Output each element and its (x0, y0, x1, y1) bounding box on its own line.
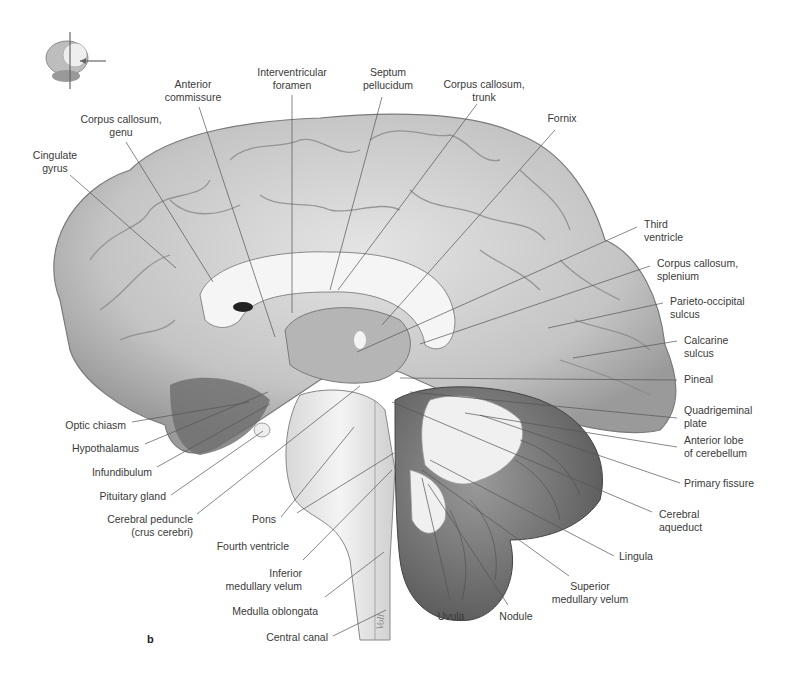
label-lingula: Lingula (619, 550, 653, 563)
label-interventricular-foramen: Interventricularforamen (257, 66, 326, 91)
panel-letter: b (147, 633, 154, 645)
label-medulla-oblongata: Medulla oblongata (232, 605, 318, 618)
label-calcarine-sulcus: Calcarinesulcus (684, 334, 728, 359)
label-anterior-commissure: Anteriorcommissure (165, 78, 222, 103)
label-hypothalamus: Hypothalamus (72, 442, 139, 455)
label-cerebral-peduncle: Cerebral peduncle(crus cerebri) (107, 513, 193, 538)
label-corpus-callosum-trunk: Corpus callosum,trunk (443, 78, 524, 103)
artist-signature: Voll (374, 613, 386, 630)
label-fourth-ventricle: Fourth ventricle (217, 540, 289, 553)
brain-sagittal-diagram: Voll Anteriorcommissure Interventricular… (0, 0, 786, 677)
label-pons: Pons (252, 513, 276, 526)
label-pituitary-gland: Pituitary gland (99, 490, 166, 503)
brain-orientation-icon (46, 32, 106, 89)
label-anterior-lobe-cerebellum: Anterior lobeof cerebellum (684, 434, 747, 459)
label-optic-chiasm: Optic chiasm (65, 419, 126, 432)
label-central-canal: Central canal (266, 631, 328, 644)
brain-illustration: Voll (0, 0, 786, 677)
label-septum-pellucidum: Septumpellucidum (363, 66, 413, 91)
label-inferior-medullary-velum: Inferiormedullary velum (226, 567, 302, 592)
label-third-ventricle: Thirdventricle (644, 218, 683, 243)
label-cingulate-gyrus: Cingulategyrus (33, 149, 77, 174)
label-parieto-occipital-sulcus: Parieto-occipitalsulcus (670, 295, 745, 320)
label-superior-medullary-velum: Superiormedullary velum (552, 580, 628, 605)
label-uvula: Uvula (438, 610, 465, 623)
label-quadrigeminal-plate: Quadrigeminalplate (684, 404, 752, 429)
label-primary-fissure: Primary fissure (684, 477, 754, 490)
label-corpus-callosum-genu: Corpus callosum,genu (80, 113, 161, 138)
label-nodule: Nodule (499, 610, 532, 623)
label-pineal: Pineal (684, 373, 713, 386)
label-cerebral-aqueduct: Cerebralaqueduct (659, 508, 702, 533)
label-corpus-callosum-splenium: Corpus callosum,splenium (657, 257, 738, 282)
label-infundibulum: Infundibulum (92, 466, 152, 479)
label-fornix: Fornix (547, 112, 576, 125)
